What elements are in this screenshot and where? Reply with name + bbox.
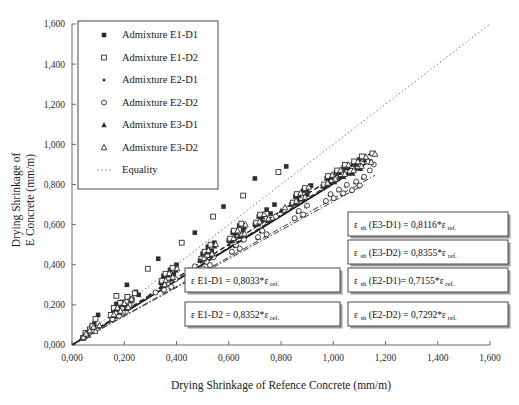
point-2-52 [93,317,98,322]
y-tick-label-4: 0,800 [44,180,66,190]
point-1-42 [272,202,277,207]
equation-box-eq-e3-d2: ε sh (E3-D2) = 0,8355*ε ref. [348,240,511,267]
point-4-33 [336,187,341,192]
point-4-38 [357,183,362,188]
equation-text-eq-e3-d1: ε sh (E3-D1) = 0,8116*ε ref. [354,219,457,231]
equation-box-eq-e1-d2: ε E1-D2 = 0,8352*ε ref. [185,302,343,329]
y-tick-label-5: 1,000 [44,140,66,150]
point-4-27 [296,208,301,213]
legend-marker-open-square-icon [102,55,107,60]
x-tick-label-2: 0,400 [166,353,188,363]
equation-box-eq-e3-d1: ε sh (E3-D1) = 0,8116*ε ref. [348,212,511,239]
y-axis-title-line2: E Concrete (mm/m) [24,154,37,246]
point-2-49 [179,240,184,245]
x-tick-label-8: 1,600 [479,353,501,363]
y-tick-label-0: 0,000 [44,340,66,350]
point-4-26 [292,216,297,221]
x-tick-label-6: 1,200 [375,353,397,363]
point-4-29 [305,203,310,208]
point-4-13 [169,284,174,289]
equation-text-eq-e1-d1: ε E1-D1 = 0,8033*ε ref. [191,275,279,287]
equation-box-eq-e2-d1: ε sh (E2-D1)= 0,7155*ε ref. [348,268,511,295]
point-4-42 [273,214,278,219]
point-4-30 [323,198,328,203]
point-4-17 [207,263,212,268]
legend-label-7: Equality [122,164,158,175]
legend-label-1: Admixture E1-D1 [122,29,198,40]
equation-box-eq-e1-d1: ε E1-D1 = 0,8033*ε ref. [185,268,343,295]
point-2-22 [208,242,213,247]
legend-label-3: Admixture E2-D1 [122,74,198,85]
point-2-47 [241,193,246,198]
equation-text-eq-e2-d1: ε sh (E2-D1)= 0,7155*ε ref. [354,275,455,287]
y-tick-label-3: 0,600 [44,220,66,230]
equation-box-eq-e2-d2: ε sh (E2-D2) = 0,7292*ε ref. [348,302,511,329]
point-4-21 [237,246,242,251]
x-tick-label-0: 0,000 [61,353,83,363]
legend-label-2: Admixture E1-D2 [122,52,198,63]
point-4-37 [354,179,359,184]
point-2-46 [276,170,281,175]
point-1-40 [264,207,269,212]
y-tick-label-7: 1,400 [44,60,66,70]
point-1-61 [221,204,226,209]
equation-text-eq-e1-d2: ε E1-D2 = 0,8352*ε ref. [191,309,279,321]
point-4-40 [367,168,372,173]
point-4-23 [256,235,261,240]
point-4-35 [344,182,349,187]
chart-figure: 0,0000,2000,4000,6000,8001,0001,2001,400… [0,0,519,405]
point-2-48 [211,214,216,219]
point-2-50 [145,266,150,271]
x-tick-label-7: 1,400 [427,353,449,363]
equation-text-eq-e3-d2: ε sh (E3-D2) = 0,8355*ε ref. [354,247,457,259]
y-tick-label-1: 0,200 [44,300,66,310]
y-tick-label-2: 0,400 [44,260,66,270]
point-3-43 [149,293,152,296]
point-2-26 [239,221,244,226]
point-4-36 [350,188,355,193]
equation-text-eq-e2-d2: ε sh (E2-D2) = 0,7292*ε ref. [354,309,457,321]
y-axis-title-line1: Drying Shrinkage of [10,153,23,248]
x-axis-title: Drying Shrinkage of Refence Concrete (mm… [171,379,391,392]
point-4-32 [331,196,336,201]
point-2-51 [114,293,119,298]
point-1-59 [284,164,289,169]
legend-label-5: Admixture E3-D1 [122,119,198,130]
y-tick-label-8: 1,600 [44,19,66,29]
point-1-60 [253,176,258,181]
point-4-45 [153,290,158,295]
x-tick-label-1: 0,200 [114,353,136,363]
point-4-24 [260,228,265,233]
point-4-34 [341,191,346,196]
point-4-28 [301,212,306,217]
point-1-41 [268,211,273,216]
y-tick-label-6: 1,200 [44,100,66,110]
point-4-39 [362,174,367,179]
legend-marker-small-dot-icon [103,79,106,82]
x-tick-label-5: 1,000 [323,353,345,363]
legend-marker-filled-square-icon [102,33,107,38]
legend[interactable]: Admixture E1-D1Admixture E1-D2Admixture … [78,21,218,189]
point-2-14 [132,291,137,296]
point-1-64 [125,283,130,288]
legend-label-6: Admixture E3-D2 [122,142,198,153]
point-4-25 [264,232,269,237]
point-1-63 [156,256,161,261]
x-tick-label-3: 0,600 [218,353,240,363]
point-3-41 [227,243,230,246]
legend-label-4: Admixture E2-D2 [122,97,198,108]
point-4-19 [229,249,234,254]
x-tick-label-4: 0,800 [270,353,292,363]
legend-marker-open-circle-icon [102,100,107,105]
point-2-18 [170,265,175,270]
scatter-plot-svg: 0,0000,2000,4000,6000,8001,0001,2001,400… [0,0,519,405]
point-1-62 [192,230,197,235]
